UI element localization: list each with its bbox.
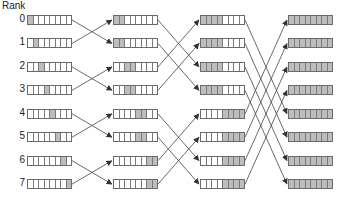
buffer-cell	[67, 63, 72, 71]
buffer-cell	[240, 39, 245, 47]
stage-0-rank-0-buffer	[27, 15, 72, 25]
stage-0-rank-7-buffer	[27, 179, 72, 189]
buffer-cell	[67, 39, 72, 47]
buffer-cell	[328, 39, 333, 47]
stage-1-rank-4-buffer	[113, 109, 158, 119]
stage-2-rank-3-buffer	[200, 85, 245, 95]
stage-1-rank-5-buffer	[113, 132, 158, 142]
buffer-cell	[328, 180, 333, 188]
buffer-cell	[153, 16, 158, 24]
stage-0-rank-1-buffer	[27, 38, 72, 48]
buffer-cell	[240, 63, 245, 71]
stage-3-rank-0-buffer	[288, 15, 333, 25]
stage-3-rank-3-buffer	[288, 85, 333, 95]
stage-1-rank-0-buffer	[113, 15, 158, 25]
buffer-cell	[328, 63, 333, 71]
recursive-doubling-diagram: Rank 01234567	[0, 0, 340, 199]
buffer-cell	[328, 110, 333, 118]
stage-3-rank-5-buffer	[288, 132, 333, 142]
stage-1-rank-1-buffer	[113, 38, 158, 48]
buffer-cell	[153, 39, 158, 47]
stage-2-rank-5-buffer	[200, 132, 245, 142]
stage-0-rank-5-buffer	[27, 132, 72, 142]
stage-0-rank-6-buffer	[27, 156, 72, 166]
buffer-cell	[240, 157, 245, 165]
buffer-cell	[328, 16, 333, 24]
stage-3-rank-4-buffer	[288, 109, 333, 119]
stage-0-rank-3-buffer	[27, 85, 72, 95]
stage-3-rank-7-buffer	[288, 179, 333, 189]
stage-0-rank-2-buffer	[27, 62, 72, 72]
buffer-cell	[240, 133, 245, 141]
buffer-cell	[153, 86, 158, 94]
stage-3-rank-6-buffer	[288, 156, 333, 166]
buffer-cell	[153, 133, 158, 141]
buffer-cell	[67, 133, 72, 141]
stage-1-rank-2-buffer	[113, 62, 158, 72]
buffer-cell	[328, 157, 333, 165]
buffer-cell	[67, 157, 72, 165]
stage-2-rank-7-buffer	[200, 179, 245, 189]
buffer-cell	[67, 86, 72, 94]
stage-2-rank-1-buffer	[200, 38, 245, 48]
buffer-cell	[153, 110, 158, 118]
buffer-cell	[153, 63, 158, 71]
stage-0-rank-4-buffer	[27, 109, 72, 119]
stage-2-rank-6-buffer	[200, 156, 245, 166]
buffer-cell	[153, 157, 158, 165]
stage-2-rank-2-buffer	[200, 62, 245, 72]
exchange-arrows	[0, 0, 340, 199]
stage-1-rank-3-buffer	[113, 85, 158, 95]
buffer-cell	[240, 16, 245, 24]
stage-3-rank-1-buffer	[288, 38, 333, 48]
buffer-cell	[328, 133, 333, 141]
stage-2-rank-0-buffer	[200, 15, 245, 25]
stage-3-rank-2-buffer	[288, 62, 333, 72]
buffer-cell	[67, 180, 72, 188]
stage-2-rank-4-buffer	[200, 109, 245, 119]
buffer-cell	[240, 110, 245, 118]
buffer-cell	[67, 16, 72, 24]
buffer-cell	[67, 110, 72, 118]
stage-1-rank-7-buffer	[113, 179, 158, 189]
buffer-cell	[328, 86, 333, 94]
buffer-cell	[240, 86, 245, 94]
buffer-cell	[153, 180, 158, 188]
stage-1-rank-6-buffer	[113, 156, 158, 166]
buffer-cell	[240, 180, 245, 188]
